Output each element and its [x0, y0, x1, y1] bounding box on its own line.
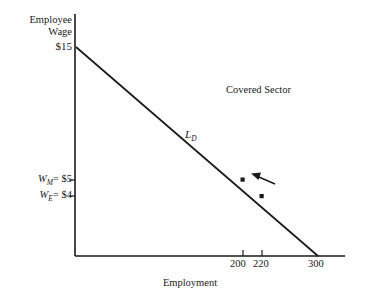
curve-label-subscript: D: [191, 134, 196, 143]
labor-demand-curve: [76, 47, 318, 256]
region-label-covered-sector: Covered Sector: [226, 84, 291, 96]
point-marker-wage-e: [260, 194, 264, 198]
y-tick-label-15: $15: [10, 40, 72, 53]
wage-m-label: WM= $5: [4, 173, 72, 188]
wage-e-value: = $4: [53, 189, 72, 200]
y-axis-title: Employee Wage: [10, 14, 72, 38]
movement-arrow-icon: [251, 173, 275, 185]
x-tick-label-200: 200: [230, 258, 246, 270]
wage-m-value: = $5: [53, 173, 72, 184]
point-marker-wage-m: [241, 178, 245, 182]
curve-label-labor-demand: LD: [185, 128, 197, 144]
x-axis-title: Employment: [0, 277, 380, 289]
wage-e-label: WE= $4: [4, 189, 72, 204]
y-axis-title-line1: Employee: [29, 14, 72, 25]
y-axis-title-line2: Wage: [10, 26, 72, 38]
x-tick-label-220: 220: [253, 258, 269, 270]
x-tick-label-300: 300: [308, 258, 324, 270]
wage-m-variable: W: [38, 173, 47, 184]
